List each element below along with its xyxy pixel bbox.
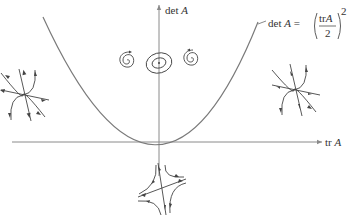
curve-equation-label: det A = trA 2 2 [258,5,347,39]
horizontal-axis-label: tr A [325,136,341,148]
trace-determinant-diagram: det A tr A det A = trA 2 2 [0,0,348,219]
saddle-portrait [138,163,186,215]
svg-text:trA: trA [319,12,333,24]
node-portrait-left [0,69,49,121]
node-portrait-right [272,64,320,116]
parabola-curve [43,17,258,145]
svg-text:2: 2 [325,27,331,39]
svg-text:2: 2 [341,5,347,17]
axes [12,5,322,176]
vertical-axis-label: det A [165,4,188,16]
spiral-portrait-left [120,51,134,68]
svg-text:det A =: det A = [268,17,300,29]
spiral-portrait-right [184,49,198,66]
